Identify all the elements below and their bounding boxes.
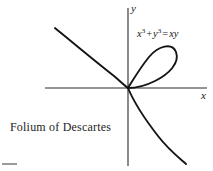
equation-equals-sign: = [161, 28, 169, 39]
folium-of-descartes-figure: y x x3+y3=xy Folium of Descartes [0, 0, 213, 171]
corner-rule-mark [2, 163, 17, 165]
curve-lower-right-branch [128, 88, 186, 164]
curve-loop [128, 46, 177, 88]
equation-plus-sign: + [145, 28, 153, 39]
equation-right-hand-side: xy [169, 28, 178, 39]
curve-equation-annotation: x3+y3=xy [137, 29, 179, 40]
curve-upper-left-branch [55, 28, 128, 88]
figure-caption: Folium of Descartes [10, 121, 111, 134]
plot-canvas [0, 0, 213, 171]
y-axis-label: y [131, 3, 136, 14]
x-axis-label: x [201, 90, 206, 101]
